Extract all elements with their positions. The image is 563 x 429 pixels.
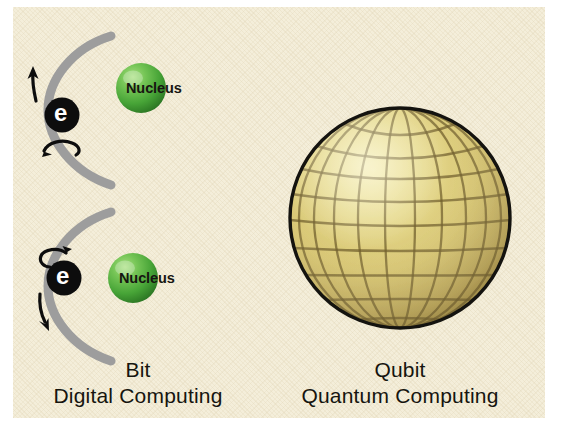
nucleus-label: Nucleus xyxy=(126,80,182,96)
bloch-sphere xyxy=(290,108,510,328)
caption-qubit-subtitle: Quantum Computing xyxy=(275,384,525,408)
caption-qubit: Qubit Quantum Computing xyxy=(275,358,525,408)
caption-qubit-title: Qubit xyxy=(275,358,525,382)
electron-label: e xyxy=(56,264,69,288)
nucleus-label: Nucleus xyxy=(119,270,175,286)
caption-bit: Bit Digital Computing xyxy=(13,358,263,408)
spin-axis-arrow-up xyxy=(33,73,36,101)
caption-bit-title: Bit xyxy=(13,358,263,382)
figure-root: e e Nucleus Nucleus Bit Digital Computin… xyxy=(0,0,563,429)
caption-bit-subtitle: Digital Computing xyxy=(13,384,263,408)
atom-spin-up xyxy=(28,36,167,185)
spin-axis-arrow-down xyxy=(40,294,45,322)
electron-label: e xyxy=(54,101,67,125)
